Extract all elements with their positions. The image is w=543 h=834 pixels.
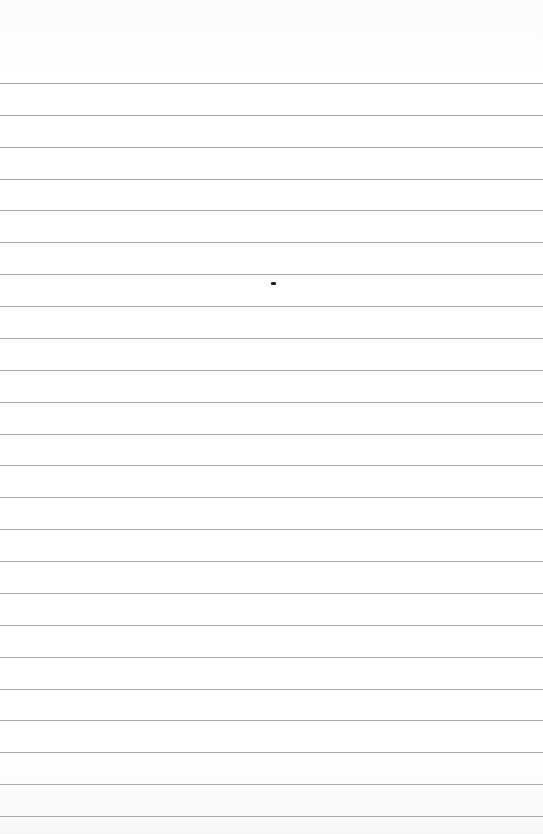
ruled-line xyxy=(0,147,543,148)
ruled-line xyxy=(0,752,543,753)
ruled-line xyxy=(0,434,543,435)
ruled-line xyxy=(0,179,543,180)
ruled-line xyxy=(0,561,543,562)
ruled-line xyxy=(0,625,543,626)
ruled-line xyxy=(0,816,543,817)
ruled-line xyxy=(0,83,543,84)
ruled-line xyxy=(0,210,543,211)
ruled-line xyxy=(0,306,543,307)
ruled-line xyxy=(0,497,543,498)
ruled-line xyxy=(0,338,543,339)
ruled-line xyxy=(0,593,543,594)
ruled-line xyxy=(0,242,543,243)
ruled-line xyxy=(0,115,543,116)
ruled-line xyxy=(0,720,543,721)
lined-paper-page xyxy=(0,0,543,834)
ink-dot xyxy=(271,282,276,285)
ruled-line xyxy=(0,274,543,275)
ruled-line xyxy=(0,402,543,403)
ruled-line xyxy=(0,657,543,658)
ruled-line xyxy=(0,529,543,530)
ruled-line xyxy=(0,784,543,785)
ruled-line xyxy=(0,370,543,371)
ruled-line xyxy=(0,465,543,466)
ruled-line xyxy=(0,689,543,690)
